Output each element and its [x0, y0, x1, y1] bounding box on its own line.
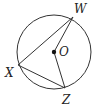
label-o: O [59, 45, 69, 59]
chord-xz [18, 65, 65, 88]
label-w: W [74, 2, 88, 16]
circle-diagram: W X Z O [0, 0, 100, 108]
center-point [52, 50, 56, 54]
label-x: X [4, 66, 14, 80]
label-z: Z [61, 93, 71, 107]
